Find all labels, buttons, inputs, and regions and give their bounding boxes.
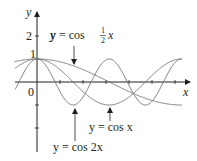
label-cos-x: y = cos x (89, 120, 133, 134)
origin-label: 0 (28, 85, 34, 99)
label-cos-half-x: y y = cos 1 2 x (49, 26, 114, 45)
x-axis-label: x (182, 85, 189, 99)
svg-text:x: x (107, 28, 114, 42)
y-tick-label-2: 2 (26, 29, 32, 43)
svg-text:1: 1 (101, 26, 105, 35)
chart-canvas: y x 0 2 1 y y = cos 1 2 x y = cos x y = … (0, 0, 197, 161)
svg-text:2: 2 (101, 36, 105, 45)
y-tick-label-1: 1 (30, 47, 36, 61)
svg-text:y = cos: y = cos (50, 28, 85, 42)
label-cos-2x: y = cos 2x (53, 140, 103, 154)
y-axis-label: y (25, 5, 32, 19)
